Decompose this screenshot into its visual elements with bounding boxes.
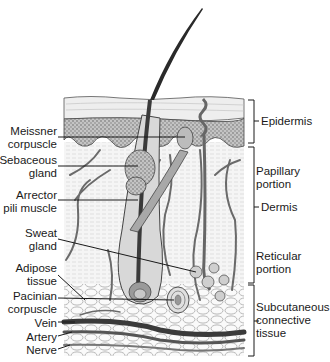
label-adipose-tissue: Adipose tissue (15, 262, 57, 288)
label-subcutaneous-connective-tissue: Subcutaneous connective tissue (256, 301, 330, 340)
label-dermis: Dermis (261, 201, 297, 214)
meissner-corpuscle (177, 127, 193, 149)
epidermis-bracket (248, 100, 259, 143)
label-meissner-corpuscle: Meissner corpuscle (8, 125, 57, 151)
label-sebaceous-gland: Sebaceous gland (0, 154, 57, 180)
label-pacinian-corpuscle: Pacinian corpuscle (8, 290, 57, 316)
label-sweat-gland: Sweat gland (25, 227, 57, 253)
hair-shaft (150, 8, 203, 100)
label-vein: Vein (35, 317, 57, 330)
label-papillary-portion: Papillary portion (256, 165, 300, 191)
label-nerve: Nerve (26, 344, 57, 357)
label-reticular-portion: Reticular portion (256, 250, 301, 276)
label-arrector-pili-muscle: Arrector pili muscle (3, 189, 57, 215)
label-epidermis: Epidermis (261, 115, 312, 128)
label-artery: Artery (26, 331, 57, 344)
